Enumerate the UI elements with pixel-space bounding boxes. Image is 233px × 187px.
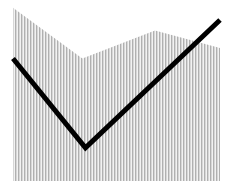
- plot-area: [13, 8, 220, 181]
- chart: [0, 0, 233, 187]
